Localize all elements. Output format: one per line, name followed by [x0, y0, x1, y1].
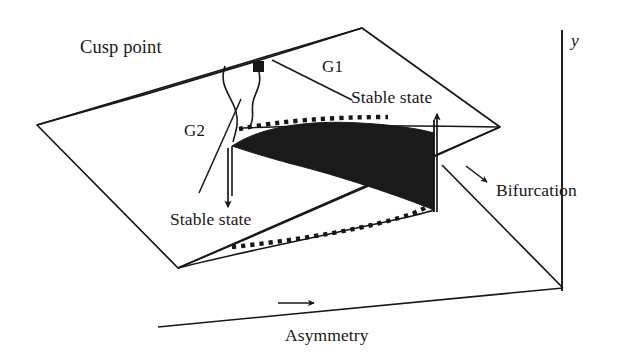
label-y-axis: y	[571, 32, 579, 50]
label-g1: G1	[322, 58, 343, 75]
arrow-down-right-icon	[466, 166, 487, 182]
label-stable-state-upper: Stable state	[351, 89, 432, 107]
asymmetry-axis-line	[158, 288, 563, 327]
filled-square-marker	[253, 61, 264, 72]
label-g2: G2	[184, 122, 205, 139]
label-stable-state-lower: Stable state	[170, 211, 251, 229]
cusp-catastrophe-figure: Cusp point G1 G2 Stable state Stable sta…	[0, 0, 621, 361]
label-cusp-point: Cusp point	[80, 38, 162, 57]
label-bifurcation: Bifurcation	[496, 182, 577, 200]
label-asymmetry: Asymmetry	[285, 327, 369, 345]
